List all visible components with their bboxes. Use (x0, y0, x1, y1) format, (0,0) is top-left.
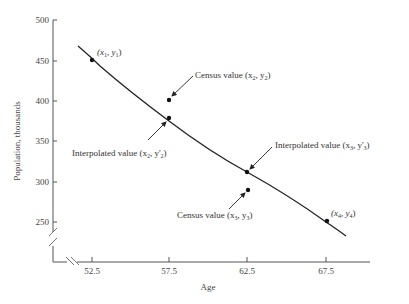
x-tick-label: 57.5 (161, 266, 177, 276)
y-tick-label: 250 (36, 217, 50, 227)
x-axis-title: Age (201, 282, 216, 292)
arrow-census-x3 (229, 193, 245, 209)
label-census-x3y3: Census value (x3, y3) (177, 210, 253, 221)
label-x4y4: (x4, y4) (331, 208, 356, 219)
y-axis-title: Population, thousands (12, 101, 22, 181)
label-interp-x2y2: Interpolated value (x2, y'2) (72, 148, 167, 159)
x-axis: 52.5 57.5 62.5 67.5 Age (53, 257, 370, 292)
data-point-interp-x2y2 (167, 116, 171, 120)
data-point-x1y1 (90, 58, 94, 62)
arrow-census-x2 (172, 76, 193, 96)
y-tick-label: 350 (36, 136, 50, 146)
x-axis-break-mark (66, 257, 74, 265)
x-tick-label: 52.5 (84, 266, 100, 276)
y-tick-label: 500 (36, 15, 50, 25)
arrow-interp-x2 (148, 122, 166, 140)
y-tick-label: 400 (36, 96, 50, 106)
x-axis-break-mark (71, 257, 79, 265)
arrow-interp-x3 (250, 147, 272, 169)
label-interp-x3y3: Interpolated value (x3, y'3) (275, 140, 370, 151)
data-point-census-x2y2 (167, 98, 171, 102)
y-tick-label: 300 (36, 177, 50, 187)
y-tick-label: 450 (36, 56, 50, 66)
y-axis: 500 450 400 350 300 250 Population, thou… (12, 15, 57, 262)
label-census-x2y2: Census value (x2, y2) (195, 70, 271, 81)
data-point-census-x3y3 (246, 188, 250, 192)
y-axis-break-mark (49, 238, 57, 246)
data-point-x4y4 (325, 219, 329, 223)
chart-canvas: 500 450 400 350 300 250 Population, thou… (0, 0, 409, 304)
x-tick-label: 62.5 (239, 266, 255, 276)
label-x1y1: (x1, y1) (97, 47, 122, 58)
data-point-interp-x3y3 (245, 170, 249, 174)
x-tick-label: 67.5 (318, 266, 334, 276)
